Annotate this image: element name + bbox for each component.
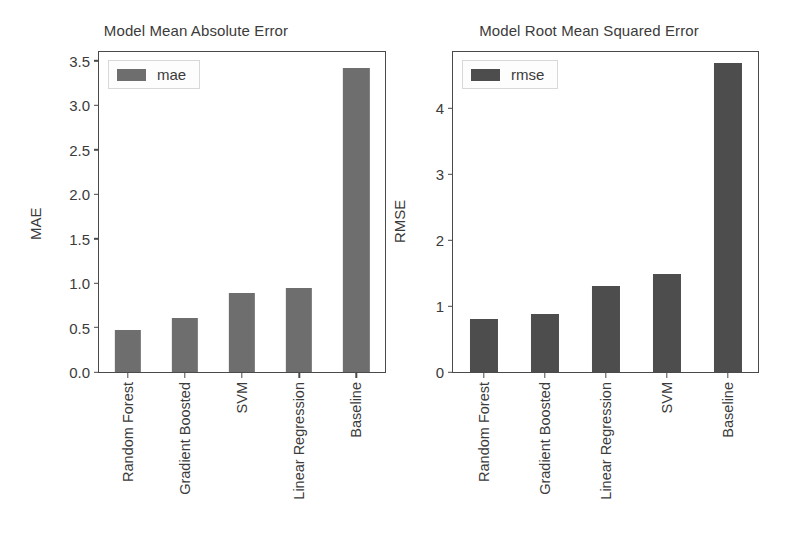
y-axis-tick: 0: [436, 365, 453, 380]
x-axis-tick-mark: [666, 372, 667, 378]
y-axis-tick: 1.0: [69, 276, 99, 291]
y-axis-tick: 1.5: [69, 231, 99, 246]
figure-bar-charts: Model Mean Absolute Error MAE mae 0.00.5…: [0, 0, 785, 551]
plot-area-mae: mae 0.00.51.01.52.02.53.03.5Random Fores…: [98, 51, 386, 373]
bar: [229, 293, 255, 372]
y-axis-tick: 2.5: [69, 142, 99, 157]
bar: [114, 330, 140, 372]
x-axis-tick-label: Random Forest: [120, 382, 135, 482]
y-axis-tick: 0.0: [69, 365, 99, 380]
bar: [591, 286, 619, 372]
y-axis-tick: 2.0: [69, 187, 99, 202]
legend-swatch-mae: [117, 69, 146, 81]
plot-area-rmse: rmse 01234Random ForestGradient BoostedL…: [452, 51, 759, 373]
x-axis-tick-mark: [356, 372, 357, 378]
legend-mae: mae: [108, 60, 200, 89]
x-axis-tick-label: Random Forest: [476, 382, 491, 482]
chart-title-mae: Model Mean Absolute Error: [0, 22, 392, 39]
x-axis-tick-mark: [241, 372, 242, 378]
x-axis-tick-label: Gradient Boosted: [537, 382, 552, 495]
x-axis-tick-mark: [727, 372, 728, 378]
bar: [713, 63, 741, 372]
bar: [172, 318, 198, 372]
x-axis-tick-label: Linear Regression: [598, 382, 613, 500]
x-axis-tick-label: Baseline: [349, 382, 364, 438]
x-axis-tick-mark: [184, 372, 185, 378]
chart-title-rmse: Model Root Mean Squared Error: [393, 22, 785, 39]
legend-label-rmse: rmse: [511, 66, 544, 83]
x-axis-tick-label: Gradient Boosted: [178, 382, 193, 495]
y-axis-tick: 0.5: [69, 320, 99, 335]
y-axis-tick: 3.5: [69, 53, 99, 68]
bar: [343, 68, 369, 372]
panel-rmse: Model Root Mean Squared Error RMSE rmse …: [393, 0, 785, 551]
y-axis-tick: 4: [436, 101, 453, 116]
legend-swatch-rmse: [471, 69, 500, 81]
y-axis-tick: 1: [436, 299, 453, 314]
y-axis-label-mae: MAE: [27, 207, 44, 240]
y-axis-tick: 2: [436, 233, 453, 248]
x-axis-tick-label: Linear Regression: [292, 382, 307, 500]
y-axis-tick: 3: [436, 167, 453, 182]
bar: [286, 288, 312, 372]
x-axis-tick-mark: [127, 372, 128, 378]
x-axis-tick-label: Baseline: [720, 382, 735, 438]
legend-label-mae: mae: [157, 66, 186, 83]
panel-mae: Model Mean Absolute Error MAE mae 0.00.5…: [0, 0, 392, 551]
y-axis-tick: 3.0: [69, 98, 99, 113]
bar: [530, 314, 558, 372]
legend-rmse: rmse: [462, 60, 558, 89]
x-axis-tick-mark: [298, 372, 299, 378]
bar: [469, 319, 497, 372]
x-axis-tick-mark: [544, 372, 545, 378]
x-axis-tick-label: SVM: [235, 382, 250, 413]
x-axis-tick-mark: [605, 372, 606, 378]
y-axis-label-rmse: RMSE: [391, 200, 408, 243]
x-axis-tick-mark: [483, 372, 484, 378]
bar: [652, 274, 680, 372]
x-axis-tick-label: SVM: [659, 382, 674, 413]
